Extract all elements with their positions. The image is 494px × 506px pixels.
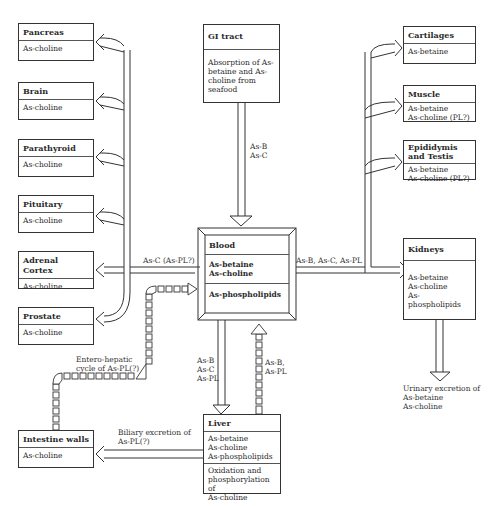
intestine-walls-box: Intestine walls As-choline bbox=[18, 430, 94, 468]
blood-content-phospholipids: As-phospholipids bbox=[205, 283, 289, 305]
organ-box-epididymis-testis: Epididymis and Testis As-betaine As-chol… bbox=[403, 140, 476, 180]
organ-box-muscle: Muscle As-betaine As-choline (PL?) bbox=[403, 85, 476, 122]
liver-content: As-betaine As-choline As-phospholipids bbox=[204, 432, 280, 463]
organ-content: As-choline bbox=[19, 325, 93, 340]
organ-name: Muscle bbox=[404, 86, 475, 103]
label-blood-to-left: As-C (As-PL?) bbox=[143, 256, 195, 265]
organ-content: As-choline bbox=[19, 279, 93, 294]
label-biliary: Biliary excretion of As-PL(?) bbox=[118, 428, 191, 446]
intestine-name: Intestine walls bbox=[19, 431, 93, 448]
organ-box-brain: Brain As-choline bbox=[18, 82, 94, 120]
organ-box-adrenal-cortex: Adrenal Cortex As-choline bbox=[18, 251, 94, 289]
liver-content-oxidation: Oxidation and phosphorylation of As-chol… bbox=[204, 463, 280, 504]
organ-name: Adrenal Cortex bbox=[19, 252, 93, 279]
arrow-to-cartilages bbox=[371, 40, 402, 58]
label-urinary: Urinary excretion of As-betaine As-choli… bbox=[403, 384, 480, 411]
organ-box-cartilages: Cartilages As-betaine bbox=[403, 26, 476, 64]
arrow-to-prostate bbox=[96, 292, 130, 326]
organ-content: As-betaine As-choline (PL?) bbox=[404, 164, 475, 184]
organ-name: Epididymis and Testis bbox=[404, 141, 475, 164]
organ-box-prostate: Prostate As-choline bbox=[18, 307, 94, 345]
label-gi-to-blood: As-B As-C bbox=[250, 142, 268, 160]
arrow-to-pancreas bbox=[96, 34, 124, 52]
label-liver-to-blood: As-B, As-PL bbox=[265, 358, 287, 376]
arrow-to-parathyroid bbox=[96, 149, 124, 166]
arrow-to-adrenal bbox=[96, 263, 124, 277]
organ-name: Cartilages bbox=[404, 27, 475, 44]
gi-tract-content: Absorption of As- betaine and As- cholin… bbox=[204, 50, 279, 97]
arrow-gi-to-blood bbox=[230, 216, 252, 226]
intestine-content: As-choline bbox=[19, 448, 93, 463]
organ-content: As-betaine As-choline (PL?) bbox=[404, 103, 475, 123]
arrow-to-brain bbox=[96, 93, 124, 110]
liver-name: Liver bbox=[204, 415, 280, 432]
blood-box: Blood As-betaine As-choline As-phospholi… bbox=[205, 235, 289, 313]
organ-content: As-choline bbox=[19, 213, 93, 228]
blood-name: Blood bbox=[205, 235, 289, 255]
organ-content: As-choline bbox=[19, 100, 93, 115]
gi-tract-name: GI tract bbox=[204, 25, 279, 50]
organ-name: Parathyroid bbox=[19, 140, 93, 157]
organ-name: Pituitary bbox=[19, 196, 93, 213]
organ-box-pancreas: Pancreas As-choline bbox=[18, 23, 94, 61]
organ-name: Brain bbox=[19, 83, 93, 100]
organ-content: As-choline bbox=[19, 157, 93, 172]
organ-name: Pancreas bbox=[19, 24, 93, 41]
gi-tract-box: GI tract Absorption of As- betaine and A… bbox=[203, 24, 280, 103]
organ-name: Prostate bbox=[19, 308, 93, 325]
kidneys-name: Kidneys bbox=[404, 239, 475, 261]
organ-content: As-choline bbox=[19, 41, 93, 56]
organ-box-parathyroid: Parathyroid As-choline bbox=[18, 139, 94, 177]
label-enterohepatic: Entero-hepatic cycle of As-PL(?) bbox=[76, 355, 139, 373]
arrow-to-pituitary bbox=[96, 208, 124, 225]
label-blood-to-right: As-B, As-C, As-PL bbox=[296, 256, 362, 265]
blood-content: As-betaine As-choline bbox=[205, 255, 289, 283]
organ-content: As-betaine bbox=[404, 44, 475, 59]
label-blood-to-liver: As-B As-C As-PL bbox=[197, 356, 219, 383]
kidneys-box: Kidneys As-betaine As-choline As-phospho… bbox=[403, 238, 476, 320]
liver-box: Liver As-betaine As-choline As-phospholi… bbox=[203, 414, 281, 494]
organ-box-pituitary: Pituitary As-choline bbox=[18, 195, 94, 233]
kidneys-content: As-betaine As-choline As-phospholipids bbox=[404, 261, 475, 312]
